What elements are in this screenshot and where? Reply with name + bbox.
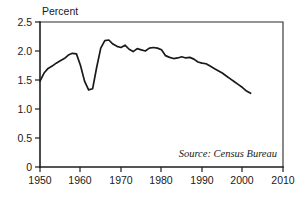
x-tick-label-6: 2010 [271,174,295,186]
plot-border-top-right [40,22,283,167]
y-tick-label-4: 2.0 [17,45,32,57]
y-tick-label-0: 0 [26,161,32,173]
series-line-percent [40,40,251,93]
y-tick-label-2: 1.0 [17,103,32,115]
x-tick-label-2: 1970 [109,174,133,186]
x-axis-tick-labels: 1950 1960 1970 1980 1990 2000 2010 [28,174,295,186]
y-axis-title: Percent [42,5,78,17]
chart-figure: 0 0.5 1.0 1.5 2.0 2.5 1950 1960 1970 198… [0,0,301,209]
y-axis-tick-labels: 0 0.5 1.0 1.5 2.0 2.5 [17,16,32,173]
plot-frame [40,22,283,167]
x-tick-label-3: 1980 [149,174,173,186]
source-note: Source: Census Bureau [179,148,277,159]
y-tick-label-1: 0.5 [17,132,32,144]
x-tick-label-1: 1960 [68,174,92,186]
y-tick-label-3: 1.5 [17,74,32,86]
y-tick-label-5: 2.5 [17,16,32,28]
x-tick-label-4: 1990 [190,174,214,186]
x-tick-label-0: 1950 [28,174,52,186]
line-chart: 0 0.5 1.0 1.5 2.0 2.5 1950 1960 1970 198… [0,0,301,209]
x-tick-label-5: 2000 [230,174,254,186]
